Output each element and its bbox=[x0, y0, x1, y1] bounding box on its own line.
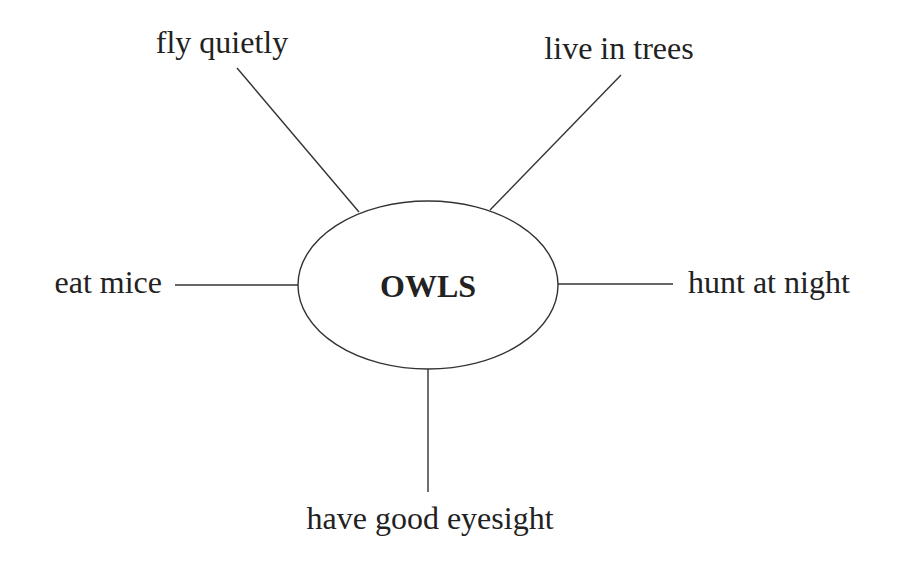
branch-label-eat-mice: eat mice bbox=[55, 264, 162, 300]
branch-label-fly-quietly: fly quietly bbox=[156, 24, 288, 60]
center-label: OWLS bbox=[380, 268, 476, 304]
branch-label-hunt-at-night: hunt at night bbox=[688, 264, 850, 300]
connector-fly-quietly bbox=[237, 68, 359, 212]
branch-label-live-in-trees: live in trees bbox=[544, 30, 693, 66]
concept-web-diagram: OWLS fly quietly live in trees eat mice … bbox=[0, 0, 918, 563]
branch-label-have-good-eyesight: have good eyesight bbox=[306, 500, 553, 536]
connector-live-in-trees bbox=[490, 75, 621, 210]
